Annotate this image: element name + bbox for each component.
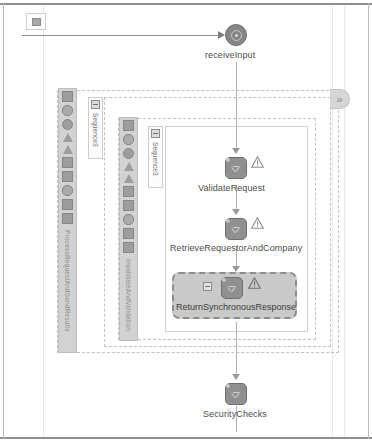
node-label-returnsynchronousresponse: ReturnSynchronousResponse xyxy=(176,302,296,312)
process-diagram-canvas[interactable]: receiveInput ProcessRequestAndSendResult… xyxy=(0,0,372,441)
scope-inner-label: InvalidateAndValidation xyxy=(125,259,132,331)
scope-inner-palette[interactable]: InvalidateAndValidation xyxy=(119,117,138,341)
activity-icon xyxy=(226,158,246,178)
connector-arrowhead xyxy=(232,148,240,154)
circle-icon[interactable] xyxy=(123,148,134,159)
canvas-bottom-rule xyxy=(0,437,372,439)
scope-outer-label: ProcessRequestAndSendResults xyxy=(64,230,71,332)
receive-icon xyxy=(231,30,242,41)
alignment-guide xyxy=(43,6,44,436)
binoculars-alt-icon[interactable] xyxy=(123,214,134,225)
binoculars-icon[interactable] xyxy=(62,105,73,116)
sequence-tab-outer[interactable]: Sequence3 xyxy=(88,97,103,159)
start-marker[interactable] xyxy=(26,13,46,30)
box-alt-icon[interactable] xyxy=(123,228,134,239)
activity-icon xyxy=(226,219,246,239)
triangle-icon[interactable] xyxy=(124,162,134,171)
triangle-icon[interactable] xyxy=(63,133,73,142)
network-icon[interactable] xyxy=(62,213,73,224)
triangle-alt-icon[interactable] xyxy=(124,174,134,183)
binoculars-icon[interactable] xyxy=(123,134,134,145)
chevron-double-right-icon: » xyxy=(336,94,342,105)
node-label-securitychecks: SecurityChecks xyxy=(203,409,267,419)
node-label-retrieverequestorandcompany: RetrieveRequestorAndCompany xyxy=(170,243,302,253)
circle-icon[interactable] xyxy=(62,119,73,130)
activity-icon xyxy=(222,278,242,298)
box-icon[interactable] xyxy=(123,186,134,197)
box-icon[interactable] xyxy=(62,157,73,168)
canvas-left-rule xyxy=(3,3,4,439)
canvas-top-rule xyxy=(0,3,372,5)
collapse-icon[interactable] xyxy=(151,129,160,138)
expand-right-handle[interactable]: » xyxy=(330,89,350,109)
node-securitychecks[interactable] xyxy=(225,383,247,405)
connector-start-to-receiveinput xyxy=(22,35,218,36)
node-retrieverequestorandcompany[interactable] xyxy=(225,218,247,240)
network-icon[interactable] xyxy=(123,242,134,253)
node-validaterequest[interactable] xyxy=(225,157,247,179)
activity-icon xyxy=(226,384,246,404)
node-returnsynchronousresponse[interactable] xyxy=(221,277,243,299)
node-label-validaterequest: ValidateRequest xyxy=(198,183,265,193)
warning-icon[interactable] xyxy=(251,217,264,229)
lightning-icon[interactable] xyxy=(123,200,134,211)
node-receiveinput[interactable] xyxy=(225,24,247,46)
collapse-icon[interactable] xyxy=(62,91,73,102)
collapse-icon[interactable] xyxy=(203,282,212,291)
connector-arrowhead xyxy=(232,209,240,215)
connector-arrowhead xyxy=(218,31,225,39)
sequence-tab-inner[interactable]: Sequence3 xyxy=(148,126,163,188)
connector-arrowhead xyxy=(232,374,240,380)
binoculars-alt-icon[interactable] xyxy=(62,185,73,196)
canvas-right-rule xyxy=(368,3,369,439)
warning-icon[interactable] xyxy=(251,156,264,168)
lightning-icon[interactable] xyxy=(62,171,73,182)
alignment-guide xyxy=(344,6,345,436)
scope-outer-palette[interactable]: ProcessRequestAndSendResults xyxy=(58,88,77,353)
sequence-label-outer: Sequence3 xyxy=(92,113,99,147)
collapse-icon[interactable] xyxy=(91,100,100,109)
collapse-icon[interactable] xyxy=(123,120,134,131)
start-marker-glyph xyxy=(32,18,41,26)
sequence-label-inner: Sequence3 xyxy=(152,142,159,176)
triangle-alt-icon[interactable] xyxy=(63,145,73,154)
box-alt-icon[interactable] xyxy=(62,199,73,210)
warning-icon[interactable] xyxy=(248,277,261,289)
node-label-receiveinput: receiveInput xyxy=(205,50,255,60)
